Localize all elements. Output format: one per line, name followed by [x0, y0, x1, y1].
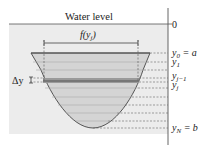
- delta-y-label: Δy: [12, 75, 23, 86]
- surface-zero-label: 0: [172, 19, 177, 30]
- level-label-yN: yN = b: [171, 122, 198, 135]
- fluid-force-diagram: Water level 0 f(yj) Δy y0 = a y1 yj−1 yj…: [0, 0, 211, 147]
- water-level-label: Water level: [65, 11, 113, 22]
